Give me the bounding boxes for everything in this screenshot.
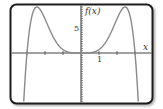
x-axis-label: x: [143, 42, 148, 52]
y-axis-label: f(x): [85, 6, 100, 16]
x-tick-label-1: 1: [97, 55, 102, 64]
function-graph: [0, 0, 163, 109]
y-tick-label-5: 5: [74, 24, 79, 33]
